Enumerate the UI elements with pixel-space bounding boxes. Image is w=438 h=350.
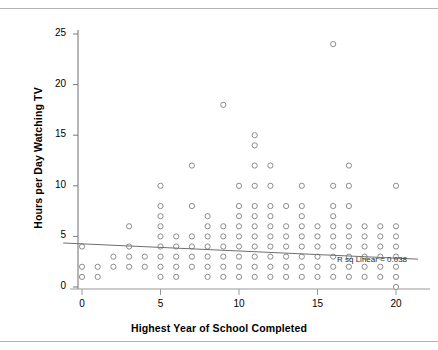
data-point: [284, 254, 289, 259]
data-point: [268, 203, 273, 208]
data-point: [393, 274, 398, 279]
data-point: [268, 224, 273, 229]
data-point: [378, 274, 383, 279]
axis-lines: [70, 30, 430, 289]
data-point: [252, 214, 257, 219]
data-point: [331, 42, 336, 47]
data-point: [346, 203, 351, 208]
data-point: [393, 183, 398, 188]
data-point: [174, 254, 179, 259]
x-tick-label: 0: [67, 298, 97, 309]
data-point: [299, 183, 304, 188]
data-point: [346, 264, 351, 269]
data-point: [299, 244, 304, 249]
data-point: [346, 163, 351, 168]
data-point: [284, 224, 289, 229]
scatter-plot-figure: 0510152025 05101520 Hours per Day Watchi…: [0, 0, 438, 350]
data-point: [205, 264, 210, 269]
data-point: [346, 244, 351, 249]
data-point: [284, 274, 289, 279]
data-point: [221, 264, 226, 269]
data-point: [284, 264, 289, 269]
data-point: [221, 274, 226, 279]
data-point: [127, 224, 132, 229]
data-point: [221, 224, 226, 229]
data-point: [127, 254, 132, 259]
data-point: [158, 183, 163, 188]
data-point: [299, 254, 304, 259]
data-point: [346, 234, 351, 239]
data-point: [299, 214, 304, 219]
data-point: [315, 264, 320, 269]
data-point: [95, 274, 100, 279]
data-point: [79, 274, 84, 279]
data-point: [158, 254, 163, 259]
x-axis-ticks: [82, 289, 396, 295]
data-point: [331, 183, 336, 188]
data-point: [378, 264, 383, 269]
data-point: [158, 224, 163, 229]
data-point: [331, 203, 336, 208]
data-point: [362, 264, 367, 269]
data-point: [189, 254, 194, 259]
data-point: [189, 264, 194, 269]
data-point: [174, 274, 179, 279]
data-point: [174, 234, 179, 239]
data-point: [315, 224, 320, 229]
data-point: [205, 254, 210, 259]
data-point: [236, 203, 241, 208]
data-point: [252, 203, 257, 208]
data-point: [284, 244, 289, 249]
data-point: [236, 183, 241, 188]
data-point: [205, 224, 210, 229]
data-point: [252, 264, 257, 269]
data-point: [127, 264, 132, 269]
data-point: [331, 264, 336, 269]
data-point: [378, 244, 383, 249]
y-tick-label: 25: [40, 27, 66, 38]
data-point: [236, 224, 241, 229]
data-point: [299, 203, 304, 208]
x-axis-title: Highest Year of School Completed: [0, 322, 438, 334]
data-point: [158, 264, 163, 269]
data-point: [221, 234, 226, 239]
data-point: [236, 234, 241, 239]
y-tick-label: 0: [40, 280, 66, 291]
data-point: [236, 254, 241, 259]
data-point: [252, 183, 257, 188]
y-axis-title: Hours per Day Watching TV: [32, 43, 44, 273]
data-point: [236, 244, 241, 249]
data-points: [79, 42, 398, 290]
plot-canvas: [0, 0, 438, 350]
data-point: [378, 224, 383, 229]
data-point: [221, 102, 226, 107]
data-point: [252, 133, 257, 138]
data-point: [111, 264, 116, 269]
data-point: [189, 203, 194, 208]
data-point: [252, 163, 257, 168]
data-point: [205, 244, 210, 249]
data-point: [315, 244, 320, 249]
data-point: [142, 264, 147, 269]
data-point: [189, 234, 194, 239]
data-point: [252, 274, 257, 279]
data-point: [189, 163, 194, 168]
data-point: [158, 234, 163, 239]
data-point: [252, 254, 257, 259]
data-point: [346, 274, 351, 279]
data-point: [299, 224, 304, 229]
data-point: [378, 234, 383, 239]
data-point: [393, 234, 398, 239]
x-tick-label: 5: [146, 298, 176, 309]
data-point: [236, 264, 241, 269]
data-point: [268, 234, 273, 239]
data-point: [111, 254, 116, 259]
data-point: [268, 254, 273, 259]
data-point: [331, 234, 336, 239]
data-point: [252, 244, 257, 249]
r-squared-annotation: R sq Linear = 0.038: [337, 255, 407, 264]
data-point: [299, 234, 304, 239]
data-point: [221, 244, 226, 249]
data-point: [79, 244, 84, 249]
data-point: [284, 234, 289, 239]
